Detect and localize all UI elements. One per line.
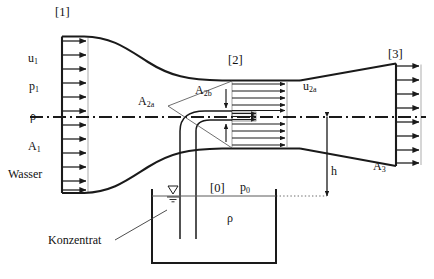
free-surface-symbol: [167, 186, 179, 202]
label-A2b-sub: 2b: [204, 89, 212, 98]
label-rho-inlet: ρ: [30, 110, 36, 122]
label-p0-sub: 0: [246, 186, 250, 195]
label-rho-tank: ρ: [227, 212, 233, 224]
label-u1-sub: 1: [34, 57, 38, 66]
throat-primary-velocity-arrows: [232, 84, 285, 145]
label-A3: A3: [373, 160, 386, 174]
label-p1-sub: 1: [35, 85, 39, 94]
label-h: h: [331, 165, 337, 177]
section-label-2: [2]: [228, 54, 243, 67]
label-p0: p0: [240, 181, 250, 195]
label-A1-sub: 1: [37, 145, 41, 154]
label-A3-sub: 3: [382, 165, 386, 174]
label-A2a: A2a: [138, 95, 154, 109]
label-A1-base: A: [28, 139, 37, 153]
label-A2a-base: A: [138, 94, 147, 108]
label-A2b: A2b: [195, 84, 212, 98]
label-p1: p1: [29, 80, 39, 94]
label-wasser: Wasser: [8, 168, 42, 180]
concentrate-tank: [152, 189, 276, 263]
label-A3-base: A: [373, 159, 382, 173]
label-A1: A1: [28, 140, 41, 154]
label-A2a-sub: 2a: [147, 100, 155, 109]
label-konzentrat: Konzentrat: [48, 234, 101, 246]
label-u2a: u2a: [303, 80, 317, 94]
suction-tube: [180, 111, 232, 239]
diagram-canvas: [1] [2] [3] u1 p1 ρ A1 Wasser A2a A2b u2…: [0, 0, 434, 279]
section-label-0: [0]: [210, 182, 225, 195]
label-u1: u1: [28, 52, 38, 66]
section-label-1: [1]: [55, 6, 70, 19]
konzentrat-leader-line: [115, 210, 167, 240]
label-A2b-base: A: [195, 83, 204, 97]
inlet-plane: [62, 37, 88, 194]
inlet-velocity-arrows: [62, 41, 86, 190]
label-u2a-sub: 2a: [309, 85, 317, 94]
outlet-velocity-arrows: [396, 66, 419, 163]
section-label-3: [3]: [388, 48, 403, 61]
